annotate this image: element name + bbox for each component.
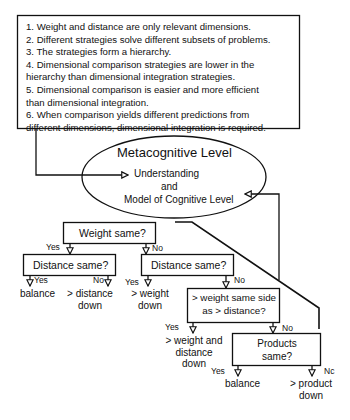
metacognitive-title: Metacognitive Level (117, 146, 232, 159)
weight-same-side-yes: Yes (165, 323, 179, 332)
outcome-balance-right: balance (225, 378, 260, 390)
principles-list: 1. Weight and distance are only relevant… (26, 21, 270, 134)
principle-line: 2. Different strategies solve different … (26, 34, 270, 47)
outcome-distance-down: > distance down (62, 288, 118, 311)
outcome-weight-down: > weight down (128, 288, 172, 311)
principle-line: 4. Dimensional comparison strategies are… (26, 59, 270, 72)
products-same-no: Nc (324, 367, 334, 376)
principle-line: 3. The strategies form a hierarchy. (26, 46, 270, 59)
metacognitive-line1: Understanding (134, 169, 199, 179)
principle-line: different dimensions, dimensional integr… (26, 122, 270, 135)
principle-line: than dimensional integration. (26, 97, 270, 110)
weight-same-yes: Yes (46, 243, 60, 252)
principle-line: 5. Dimensional comparison is easier and … (26, 84, 270, 97)
distance-same-right-yes: Yes (125, 278, 139, 287)
outcome-weight-and-distance-down: > weight and distance down (164, 335, 224, 370)
weight-same-label: Weight same? (79, 228, 146, 239)
distance-same-left-label: Distance same? (33, 260, 108, 271)
principle-line: hierarchy than dimensional integration s… (26, 71, 270, 84)
distance-same-right-no: No (234, 276, 245, 285)
products-same-label: Products same? (233, 338, 321, 363)
distance-same-right-label: Distance same? (151, 260, 226, 271)
products-same-yes: Yes (211, 367, 225, 376)
principle-line: 6. When comparison yields different pred… (26, 109, 270, 122)
principle-line: 1. Weight and distance are only relevant… (26, 21, 270, 34)
metacognitive-line2: and (161, 182, 178, 192)
outcome-product-down: > product down (283, 378, 339, 401)
distance-same-left-yes: Yes (34, 276, 48, 285)
distance-same-left-no: No (93, 276, 104, 285)
outcome-balance-left: balance (20, 288, 55, 300)
feedback-arrow-right (245, 194, 279, 280)
weight-same-no: No (152, 244, 163, 253)
metacognitive-line3: Model of Cognitive Level (124, 195, 234, 205)
weight-same-side-no: No (282, 324, 293, 333)
weight-same-side-label: > weight same side as > distance? (188, 292, 280, 317)
principles-to-metacognitive-arrow (36, 128, 128, 175)
